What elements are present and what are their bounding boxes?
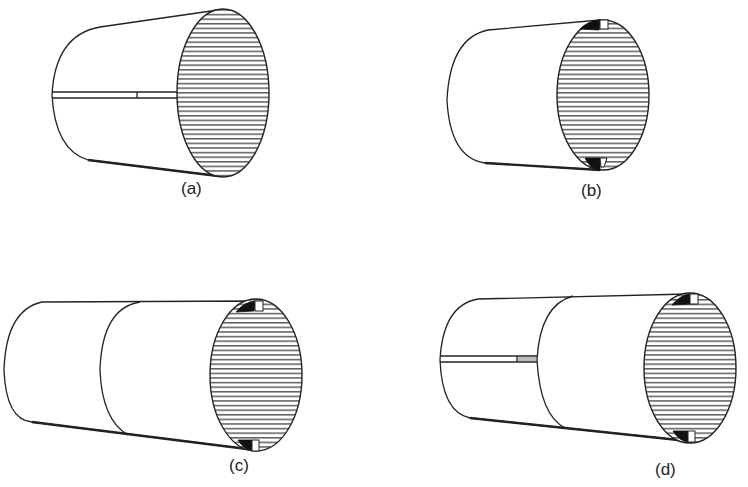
panel-label-a: (a)	[181, 179, 202, 199]
hatched-end-face	[644, 293, 736, 443]
hatched-end-face	[177, 9, 269, 177]
panel-a-cylinder	[52, 9, 269, 177]
hatched-end-face	[210, 299, 302, 451]
panel-label-c: (c)	[229, 456, 249, 476]
hatched-end-face	[557, 20, 649, 170]
panel-d-cylinder	[440, 293, 736, 443]
panel-label-d: (d)	[655, 460, 676, 480]
panel-c-cylinder	[4, 299, 302, 451]
cylinder-diagram-figure	[0, 0, 748, 487]
panel-b-cylinder	[447, 20, 649, 170]
panel-label-b: (b)	[581, 181, 602, 201]
